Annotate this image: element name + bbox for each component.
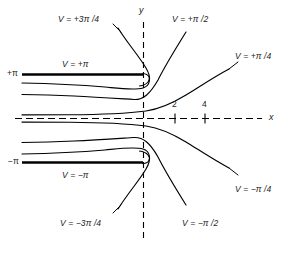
label-v-minus-pi: V = −π	[62, 171, 89, 180]
y-axis-label: y	[139, 6, 144, 15]
label-v-plus-pi-2: V = +π /2	[172, 15, 208, 24]
label-v-plus-pi-4: V = +π /4	[235, 52, 271, 61]
label-v-plus-pi: V = +π	[62, 60, 89, 69]
y-tick-label-plus-pi: +π	[7, 69, 18, 78]
figure-canvas	[0, 0, 285, 253]
x-tick-label-4: 4	[202, 100, 207, 109]
label-v-plus-3pi-4: V = +3π /4	[58, 15, 99, 24]
label-v-minus-pi-4: V = −π /4	[235, 185, 271, 194]
contour-v-minus-pi-2	[22, 137, 186, 205]
x-tick-label-2: 2	[172, 100, 177, 109]
label-v-minus-pi-2: V = −π /2	[182, 219, 218, 228]
equipotential-diagram: y x 2 4 +π −π V = +3π /4 V = +π /2 V = +…	[0, 0, 285, 253]
label-v-minus-3pi-4: V = −3π /4	[60, 219, 101, 228]
contour-v-plus-pi-2	[22, 32, 186, 100]
y-tick-label-minus-pi: −π	[8, 157, 19, 166]
x-axis-label: x	[269, 113, 274, 122]
